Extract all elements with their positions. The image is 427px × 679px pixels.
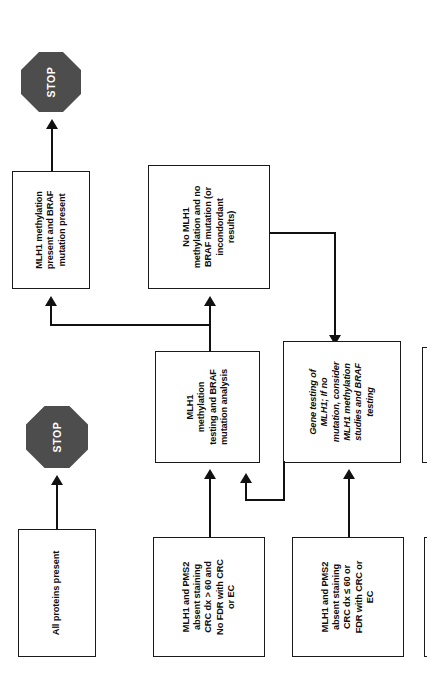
connector-all-proteins-to-stop-arrowhead — [51, 475, 63, 485]
node-no-methylation-no-braf: No MLH1 methylation and no BRAF mutation… — [148, 165, 270, 289]
stop-node-all-proteins: STOP — [26, 406, 88, 468]
stop-node-all-proteins-label: STOP — [51, 422, 63, 453]
connector-braf-present-to-stop — [51, 127, 53, 171]
node-gene-testing-mlh1-label: Gene testing of MLH1; If no mutation, co… — [308, 362, 376, 442]
node-methylation-and-braf-present-label: MLH1 methylation present and BRAF mutati… — [34, 191, 68, 270]
stop-node-braf-present: STOP — [21, 52, 81, 112]
node-gene-testing-mlh1: Gene testing of MLH1; If no mutation, co… — [283, 341, 401, 463]
connector-no-methylation-drop — [270, 232, 336, 234]
connector-gene-mlh1-feedback-base — [283, 461, 285, 501]
stop-node-braf-present-label: STOP — [45, 67, 57, 98]
connector-braf-present-to-stop-arrowhead — [46, 119, 58, 129]
connector-to-no-methylation — [209, 304, 211, 326]
node-mlh1-pms2-absent-over-60-label: MLH1 and PMS2 absent staining CRC dx > 6… — [181, 559, 238, 635]
node-mlh1-pms2-absent-over-60: MLH1 and PMS2 absent staining CRC dx > 6… — [153, 537, 265, 657]
node-methylation-and-braf-present: MLH1 methylation present and BRAF mutati… — [12, 171, 90, 289]
connector-methylation-testing-split-stem — [209, 325, 211, 351]
connector-gene-mlh1-feedback-entry — [245, 481, 247, 501]
connector-gene-mlh1-feedback-riser — [245, 499, 284, 501]
connector-no-methylation-to-gene-mlh1 — [334, 232, 336, 335]
node-mlh1-pms2-absent-under-60: MLH1 and PMS2 absent staining CRC dx ≤ 6… — [292, 537, 404, 657]
node-no-methylation-no-braf-label: No MLH1 methylation and no BRAF mutation… — [181, 186, 238, 269]
connector-under60-to-gene-mlh1-arrowhead — [343, 469, 355, 479]
connector-to-braf-present — [50, 304, 52, 326]
connector-to-no-methylation-arrowhead — [204, 296, 216, 306]
connector-methylation-testing-split-riser — [50, 324, 210, 326]
connector-over60-to-methylation-testing — [209, 477, 211, 537]
connector-under60-to-gene-mlh1 — [348, 477, 350, 537]
node-all-proteins-present: All proteins present — [18, 529, 96, 657]
figure-rotation-wrapper: All proteins present STOP MLH1 and PMS2 … — [0, 0, 427, 679]
connector-gene-mlh1-feedback-arrowhead — [240, 473, 252, 483]
connector-to-braf-present-arrowhead — [45, 296, 57, 306]
connector-all-proteins-to-stop — [56, 483, 58, 529]
node-mlh1-methylation-testing: MLH1 methylation testing and BRAF mutati… — [155, 351, 260, 463]
node-mlh1-pms2-absent-under-60-label: MLH1 and PMS2 absent staining CRC dx ≤ 6… — [320, 561, 377, 634]
node-mlh1-methylation-testing-label: MLH1 methylation testing and BRAF mutati… — [185, 369, 230, 445]
node-all-proteins-present-label: All proteins present — [51, 551, 62, 635]
node-gene-testing-msh2: Gene testing of MSH2; if no mutation, ge… — [422, 347, 427, 463]
connector-over60-to-methylation-testing-arrowhead — [204, 469, 216, 479]
flowchart-canvas: All proteins present STOP MLH1 and PMS2 … — [0, 0, 427, 679]
